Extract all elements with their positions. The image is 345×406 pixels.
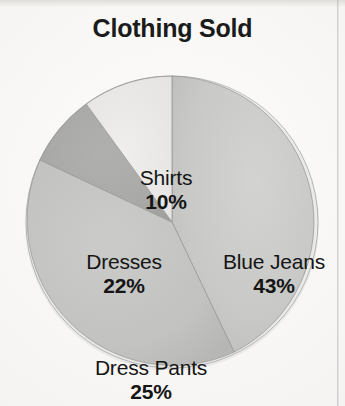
pie-chart-page: Clothing Sold: [0, 0, 345, 406]
pie-label-blue-jeans-percent: 43%: [206, 274, 342, 298]
pie-label-dress-pants-percent: 25%: [72, 380, 230, 404]
page-right-rule: [337, 0, 339, 406]
pie-chart: Shirts 10% Blue Jeans 43% Dresses 22% Dr…: [24, 74, 320, 370]
scan-top-edge-shadow: [0, 0, 345, 7]
pie-label-dresses: Dresses 22%: [62, 250, 186, 297]
pie-label-dresses-percent: 22%: [62, 274, 186, 298]
pie-label-dress-pants-name: Dress Pants: [72, 356, 230, 380]
chart-title: Clothing Sold: [0, 14, 345, 43]
pie-label-shirts-percent: 10%: [110, 190, 222, 214]
pie-label-blue-jeans-name: Blue Jeans: [206, 250, 342, 274]
pie-label-shirts-name: Shirts: [110, 166, 222, 190]
pie-label-blue-jeans: Blue Jeans 43%: [206, 250, 342, 297]
pie-label-dresses-name: Dresses: [62, 250, 186, 274]
pie-label-dress-pants: Dress Pants 25%: [72, 356, 230, 403]
pie-label-shirts: Shirts 10%: [110, 166, 222, 213]
pie-chart-svg: [24, 74, 320, 370]
